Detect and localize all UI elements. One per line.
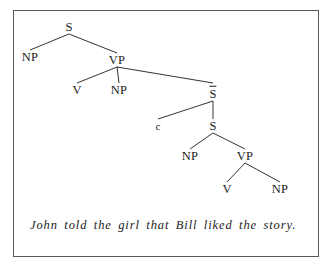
tree-node-s-embed: S bbox=[209, 120, 216, 133]
tree-node-np-subj: NP bbox=[22, 51, 38, 64]
syntax-tree-figure: SNPVPVNPScSNPVPVNP John told the girl th… bbox=[0, 0, 333, 270]
tree-node-vp-emb: VP bbox=[237, 150, 253, 163]
tree-node-s-root: S bbox=[65, 21, 72, 34]
tree-node-label: S bbox=[209, 87, 216, 101]
tree-node-np-emb: NP bbox=[182, 150, 198, 163]
tree-node-np-obj: NP bbox=[111, 84, 127, 97]
tree-node-s-bar: S bbox=[209, 86, 216, 101]
example-sentence: John told the girl that Bill liked the s… bbox=[30, 218, 296, 233]
tree-node-v-emb: V bbox=[222, 183, 231, 196]
tree-node-c-comp: c bbox=[155, 121, 160, 132]
tree-node-np-emb2: NP bbox=[272, 183, 288, 196]
tree-node-vp-main: VP bbox=[109, 54, 125, 67]
tree-node-v-main: V bbox=[72, 84, 81, 97]
